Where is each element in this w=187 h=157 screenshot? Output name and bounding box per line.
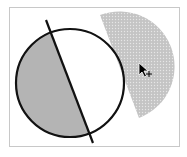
diagram-canvas	[0, 0, 187, 157]
dragged-half-disc[interactable]	[100, 11, 175, 118]
